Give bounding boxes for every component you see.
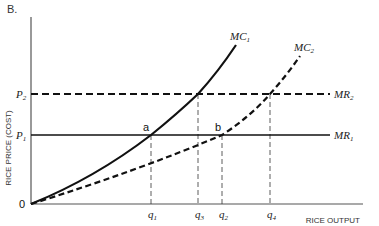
- p2-label: P2: [15, 88, 27, 102]
- x-axis-label: RICE OUTPUT: [306, 216, 360, 225]
- quantity-guides: [151, 94, 270, 204]
- mr1-label: MR1: [333, 129, 353, 143]
- y-axis-label: RICE PRICE (COST): [4, 110, 13, 186]
- p1-label: P1: [15, 129, 26, 143]
- mc1-label: MC1: [229, 30, 250, 44]
- point-a-label: a: [143, 121, 150, 133]
- economics-diagram: B. RICE PRICE (COST) RICE OUTPUT 0 P2 P1…: [0, 0, 379, 226]
- origin-label: 0: [19, 198, 25, 210]
- axes: [31, 17, 363, 204]
- mc2-label: MC2: [293, 41, 315, 55]
- q3-label: q3: [195, 208, 205, 222]
- point-b-label: b: [215, 121, 221, 133]
- mr2-label: MR2: [333, 88, 354, 102]
- q4-label: q4: [267, 208, 277, 222]
- q1-label: q1: [148, 208, 157, 222]
- mc2-curve: [31, 56, 300, 204]
- mc1-curve: [31, 45, 236, 204]
- q2-label: q2: [219, 208, 229, 222]
- panel-label: B.: [7, 3, 17, 15]
